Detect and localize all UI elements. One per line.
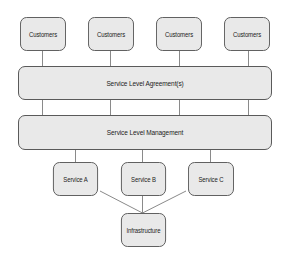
customers-node-label: Customers	[165, 31, 193, 38]
sla-node: Service Level Agreement(s)	[18, 66, 272, 100]
service-a-node: Service A	[53, 162, 98, 196]
customers-node-3: Customers	[156, 17, 202, 51]
service-c-node: Service C	[188, 162, 234, 196]
service-c-label: Service C	[198, 176, 223, 183]
infrastructure-label: Infrastructure	[127, 227, 161, 234]
infrastructure-node: Infrastructure	[121, 213, 166, 247]
customers-node-label: Customers	[97, 31, 125, 38]
customers-node-label: Customers	[233, 31, 261, 38]
customers-node-1: Customers	[20, 17, 66, 51]
service-a-label: Service A	[63, 176, 87, 183]
service-b-node: Service B	[121, 162, 166, 196]
customers-node-label: Customers	[29, 31, 57, 38]
slm-node: Service Level Management	[18, 115, 272, 150]
customers-node-4: Customers	[224, 17, 270, 51]
customers-node-2: Customers	[88, 17, 134, 51]
service-b-label: Service B	[131, 176, 156, 183]
slm-node-label: Service Level Management	[107, 129, 183, 136]
sla-node-label: Service Level Agreement(s)	[106, 80, 183, 87]
